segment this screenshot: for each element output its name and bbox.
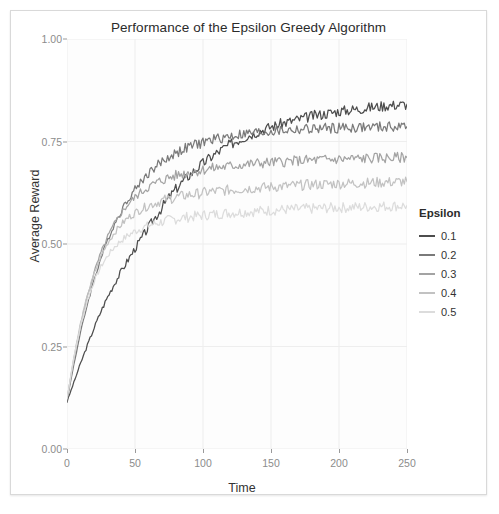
legend-item-label: 0.1	[441, 230, 456, 242]
legend-line-swatch	[419, 311, 435, 313]
legend-line-swatch	[419, 235, 435, 237]
plot-panel	[67, 39, 407, 449]
x-tick-label: 50	[113, 457, 157, 469]
x-tick-label: 100	[181, 457, 225, 469]
y-tick-label: 0.25	[20, 341, 62, 353]
legend-item-label: 0.4	[441, 287, 456, 299]
legend-title: Epsilon	[419, 207, 489, 219]
x-tick-mark	[339, 449, 340, 453]
y-tick-label: 0.75	[20, 136, 62, 148]
y-tick-label: 0.00	[20, 443, 62, 455]
legend-item-epsilon-0.5[interactable]: 0.5	[419, 302, 489, 321]
legend-item-epsilon-0.2[interactable]: 0.2	[419, 245, 489, 264]
x-tick-mark	[67, 449, 68, 453]
x-tick-label: 250	[385, 457, 429, 469]
x-axis: 050100150200250	[67, 449, 407, 475]
legend-item-epsilon-0.3[interactable]: 0.3	[419, 264, 489, 283]
y-axis: 0.000.250.500.751.00	[11, 39, 62, 449]
legend-items: 0.10.20.30.40.5	[419, 226, 489, 321]
chart-title: Performance of the Epsilon Greedy Algori…	[11, 20, 486, 35]
legend-item-label: 0.2	[441, 249, 456, 261]
x-tick-label: 0	[45, 457, 89, 469]
legend-item-label: 0.5	[441, 306, 456, 318]
legend-item-epsilon-0.4[interactable]: 0.4	[419, 283, 489, 302]
legend: Epsilon 0.10.20.30.40.5	[419, 207, 489, 321]
legend-line-swatch	[419, 273, 435, 275]
x-tick-label: 200	[317, 457, 361, 469]
x-tick-label: 150	[249, 457, 293, 469]
x-tick-mark	[203, 449, 204, 453]
legend-item-epsilon-0.1[interactable]: 0.1	[419, 226, 489, 245]
x-axis-title: Time	[67, 481, 417, 495]
figure-frame: Performance of the Epsilon Greedy Algori…	[10, 10, 487, 495]
plot-area	[67, 39, 407, 449]
x-tick-mark	[135, 449, 136, 453]
legend-line-swatch	[419, 292, 435, 294]
legend-item-label: 0.3	[441, 268, 456, 280]
legend-line-swatch	[419, 254, 435, 256]
x-tick-mark	[407, 449, 408, 453]
y-tick-label: 1.00	[20, 33, 62, 45]
y-tick-label: 0.50	[20, 238, 62, 250]
x-tick-mark	[271, 449, 272, 453]
